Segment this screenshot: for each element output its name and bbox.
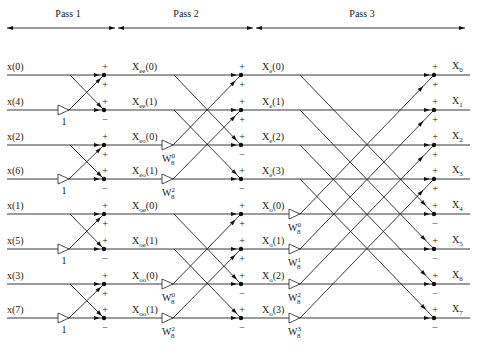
summing-node [432,143,436,147]
arrow-right-icon [231,316,237,320]
twiddle-label: W28 [162,325,175,340]
plus-sign: + [239,235,245,246]
fft-butterfly-diagram: Pass 1Pass 2Pass 3 +++−+++−+++−+++−+++++… [0,0,479,355]
arrow-right-icon [231,108,237,112]
plus-sign: + [432,270,438,281]
plus-sign: + [102,61,108,72]
twiddle-label: W08 [288,221,301,236]
arrow-right-icon [459,26,465,30]
plus-sign: + [432,235,438,246]
stage1-output-label: Xoe(0) [132,200,158,214]
pass-headers: Pass 1Pass 2Pass 3 [7,8,465,30]
input-label: x(0) [7,61,24,73]
stage2-output-label: Xe(1) [262,96,284,110]
plus-sign: + [432,61,438,72]
arrow-right-icon [424,247,430,251]
multiplier-triangle-icon [289,313,300,323]
arrow-right-icon [231,73,237,77]
plus-sign: + [102,165,108,176]
minus-sign: − [432,218,438,229]
signal-flow-graph: Pass 1Pass 2Pass 3 +++−+++−+++−+++−+++++… [0,0,479,355]
summing-node [102,316,106,320]
twiddle-label: 1 [62,185,67,196]
stage2-output-label: Xe(0) [262,61,284,75]
multiplier-triangle-icon [289,279,300,289]
plus-sign: + [432,165,438,176]
twiddle-label: W08 [162,291,175,306]
output-label: X2 [452,130,463,144]
plus-sign: + [239,79,245,90]
summing-node [239,108,243,112]
arrow-left-icon [256,26,262,30]
arrow-left-icon [118,26,124,30]
stage2-output-label: Xo(2) [262,270,284,284]
plus-sign: + [239,270,245,281]
arrow-right-icon [231,247,237,251]
multiplier-triangle-icon [162,174,173,184]
arrow-left-icon [7,26,13,30]
stage2-output-label: Xo(0) [262,200,284,214]
arrow-right-icon [424,212,430,216]
summing-node [102,143,106,147]
arrow-right-icon [424,73,430,77]
arrow-right-icon [231,212,237,216]
arrow-right-icon [109,26,115,30]
minus-sign: − [239,322,245,333]
plus-sign: + [239,218,245,229]
arrow-right-icon [94,247,100,251]
input-label: x(4) [7,96,24,108]
stage1-output-label: Xeo(0) [132,131,158,145]
plus-sign: + [239,165,245,176]
plus-sign: + [432,114,438,125]
plus-sign: + [432,131,438,142]
multiplier-triangle-icon [289,209,300,219]
minus-sign: − [239,183,245,194]
multiplier-triangle-icon [58,244,69,254]
output-label: X5 [452,234,463,248]
arrow-right-icon [94,73,100,77]
arrow-right-icon [94,282,100,286]
multiplier-triangle-icon [58,105,69,115]
arrow-right-icon [231,143,237,147]
arrow-right-icon [231,177,237,181]
pass-label: Pass 2 [173,8,198,19]
summing-node [239,212,243,216]
minus-sign: − [102,253,108,264]
summing-node [102,177,106,181]
plus-sign: + [432,304,438,315]
plus-sign: + [102,235,108,246]
minus-sign: − [239,149,245,160]
labels: +++−+++−+++−+++−+++++−+−+++++−+−++++++++… [7,60,463,340]
arrow-right-icon [424,177,430,181]
plus-sign: + [102,79,108,90]
twiddle-label: W18 [288,256,301,271]
arrow-right-icon [424,108,430,112]
twiddle-label: W38 [288,325,301,340]
output-label: X7 [452,303,463,317]
plus-sign: + [432,200,438,211]
stage2-output-label: Xe(2) [262,131,284,145]
stage2-output-label: Xe(3) [262,165,284,179]
stage1-output-label: Xoo(0) [132,270,158,284]
multiplier-triangle-icon [162,279,173,289]
arrow-right-icon [231,282,237,286]
minus-sign: − [102,322,108,333]
plus-sign: + [102,270,108,281]
plus-sign: + [432,79,438,90]
stage1-output-label: Xee(0) [132,61,157,75]
stage1-output-label: Xoo(1) [132,304,158,318]
multiplier-triangle-icon [58,313,69,323]
input-label: x(6) [7,165,24,177]
twiddle-label: W28 [288,291,301,306]
stage2-output-label: Xo(1) [262,235,284,249]
stage1-output-label: Xeo(1) [132,165,158,179]
wires [7,73,470,320]
summing-node [102,247,106,251]
stage1-output-label: Xee(1) [132,96,157,110]
minus-sign: − [432,322,438,333]
pass-label: Pass 1 [55,8,80,19]
plus-sign: + [102,288,108,299]
plus-sign: + [239,304,245,315]
output-label: X6 [452,269,463,283]
twiddle-label: W08 [162,152,175,167]
